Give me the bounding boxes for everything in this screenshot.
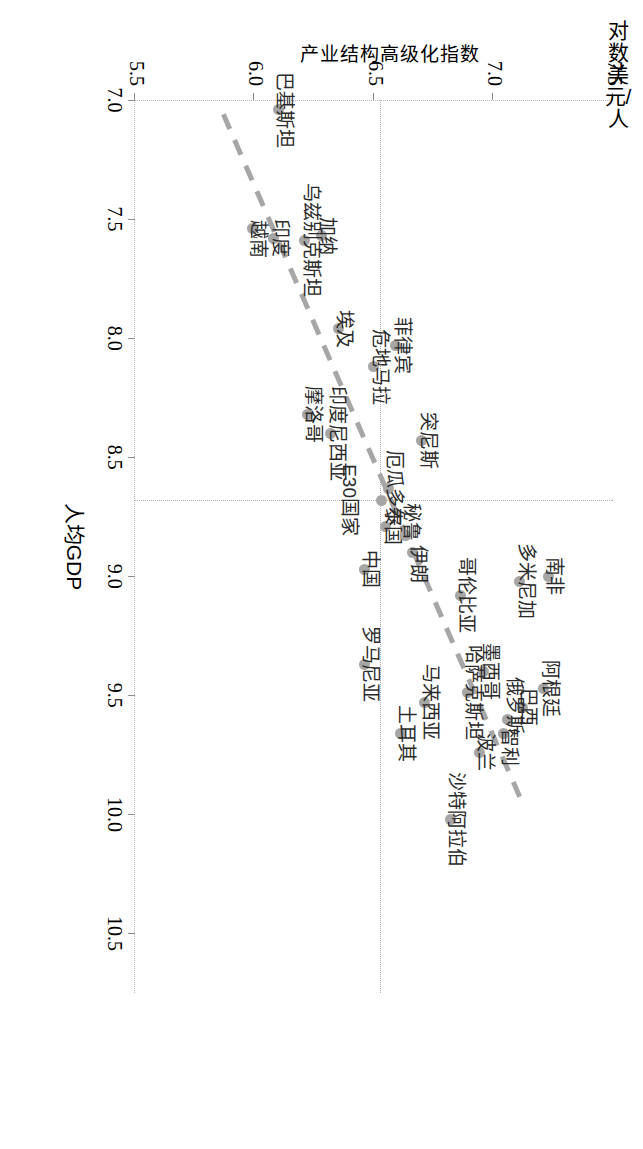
x-tick <box>128 219 135 220</box>
y-tick <box>254 93 255 100</box>
y-axis-title: 产业结构高级化指数 <box>290 39 490 66</box>
x-tick-label: 9.0 <box>103 546 126 606</box>
data-point-label: 巴基斯坦 <box>273 72 300 148</box>
y-tick <box>134 93 135 100</box>
x-tick <box>128 814 135 815</box>
x-tick <box>128 576 135 577</box>
y-tick-label: 6.0 <box>245 0 268 86</box>
y-tick <box>373 93 374 100</box>
x-tick <box>128 457 135 458</box>
data-point-label: 哥伦比亚 <box>455 557 482 633</box>
data-point-label: 多米尼加 <box>515 543 542 619</box>
x-tick-label: 10.0 <box>103 784 126 844</box>
y-tick-label: 5.5 <box>125 0 148 86</box>
x-tick-label: 7.5 <box>103 189 126 249</box>
data-point-label: 危地马拉 <box>369 329 396 405</box>
data-point-label: 中国 <box>359 550 386 588</box>
plot-area: 巴基斯坦加纳乌兹别克斯坦印度越南埃及菲律宾危地马拉摩洛哥印度尼西亚突尼斯厄瓜多尔… <box>135 100 613 993</box>
data-point-label: E30国家 <box>338 464 365 536</box>
x-tick <box>128 100 135 101</box>
y-axis-title-text: 产业结构高级化指数 <box>300 44 480 65</box>
data-point-label: 波兰 <box>474 733 501 771</box>
x-tick <box>128 695 135 696</box>
data-point-label: 南非 <box>543 557 570 595</box>
x-tick-label: 9.5 <box>103 665 126 725</box>
data-point-label: 伊朗 <box>407 545 434 583</box>
data-point-label: 土耳其 <box>395 705 422 762</box>
figure-canvas: 7.07.58.08.59.09.510.010.5 5.56.06.57.07… <box>0 0 643 1149</box>
data-point-label: 马来西亚 <box>419 664 446 740</box>
x-tick-label: 8.5 <box>103 427 126 487</box>
scatter-chart: 7.07.58.08.59.09.510.010.5 5.56.06.57.07… <box>0 0 643 1149</box>
x-axis-unit-caption: 对数美元/人 <box>601 20 635 130</box>
data-point-label: 沙特阿拉伯 <box>445 772 472 867</box>
x-tick <box>128 933 135 934</box>
data-point-label: 俄罗斯 <box>503 677 530 734</box>
data-point-label: 智利 <box>498 728 525 766</box>
x-tick <box>128 338 135 339</box>
data-point-label: 突尼斯 <box>417 412 444 469</box>
x-axis-unit-text: 对数美元/人 <box>605 19 632 130</box>
x-tick-label: 10.5 <box>103 903 126 963</box>
x-axis-title: 人均GDP <box>61 100 91 993</box>
data-point-label: 哈萨克斯坦 <box>462 645 489 740</box>
x-tick-label: 7.0 <box>103 70 126 130</box>
data-point-label: 乌兹别克斯坦 <box>300 183 327 297</box>
x-axis-title-text: 人均GDP <box>63 503 86 591</box>
y-tick <box>493 93 494 100</box>
x-tick-label: 8.0 <box>103 308 126 368</box>
data-point[interactable] <box>376 495 387 506</box>
data-point-label: 越南 <box>247 220 274 258</box>
data-point-label: 秘鲁 <box>400 503 427 541</box>
data-point-label: 埃及 <box>333 310 360 348</box>
data-point-label: 罗马尼亚 <box>359 626 386 702</box>
